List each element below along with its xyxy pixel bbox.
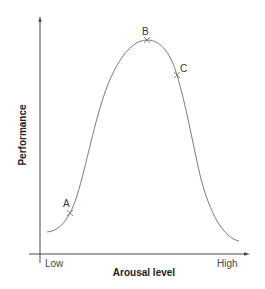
x-tick-high: High	[217, 258, 238, 269]
y-axis-arrow-icon	[38, 16, 41, 22]
y-axis-title: Performance	[17, 104, 28, 166]
chart-canvas: A B C Low High Arousal level Performance	[0, 0, 265, 289]
performance-curve	[47, 40, 239, 241]
x-tick-low: Low	[45, 258, 64, 269]
point-a-marker-icon	[67, 210, 73, 216]
point-b-label: B	[142, 26, 149, 37]
point-a-label: A	[63, 198, 70, 209]
x-axis-arrow-icon	[244, 252, 250, 255]
x-axis-title: Arousal level	[113, 267, 175, 278]
point-c-label: C	[180, 63, 187, 74]
